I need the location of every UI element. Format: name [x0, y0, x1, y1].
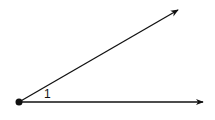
vertex-point	[16, 99, 23, 106]
upper-ray	[19, 10, 178, 102]
angle-label: 1	[44, 87, 51, 101]
angle-diagram: 1	[0, 0, 215, 120]
